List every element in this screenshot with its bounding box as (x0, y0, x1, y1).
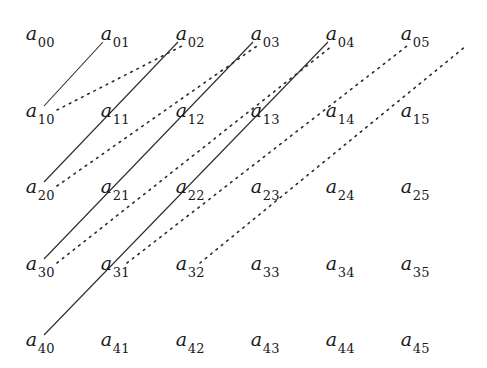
matrix-cell-a05: a05 (401, 24, 429, 47)
matrix-cell-base-symbol: a (326, 99, 337, 121)
matrix-cell-a24: a24 (326, 177, 354, 200)
matrix-cell-subscript: 33 (263, 265, 280, 280)
matrix-cell-a02: a02 (176, 24, 204, 47)
matrix-cell-subscript: 14 (338, 112, 355, 127)
matrix-cell-base-symbol: a (251, 99, 262, 121)
matrix-cell-base-symbol: a (176, 22, 187, 44)
matrix-cell-a14: a14 (326, 101, 354, 124)
matrix-cell-subscript: 44 (338, 341, 355, 356)
matrix-cell-base-symbol: a (401, 328, 412, 350)
matrix-cell-subscript: 02 (188, 35, 205, 50)
matrix-cell-a22: a22 (176, 177, 204, 200)
matrix-cell-subscript: 11 (113, 112, 130, 127)
matrix-cell-subscript: 34 (338, 265, 355, 280)
matrix-cell-a30: a30 (26, 254, 54, 277)
matrix-cell-subscript: 15 (413, 112, 430, 127)
matrix-cell-subscript: 25 (413, 188, 430, 203)
matrix-cell-a21: a21 (101, 177, 129, 200)
matrix-labels-layer: a00a01a02a03a04a05a10a11a12a13a14a15a20a… (0, 0, 487, 368)
matrix-cell-base-symbol: a (26, 175, 37, 197)
matrix-cell-base-symbol: a (101, 328, 112, 350)
matrix-cell-a04: a04 (326, 24, 354, 47)
matrix-cell-base-symbol: a (326, 175, 337, 197)
matrix-cell-subscript: 32 (188, 265, 205, 280)
matrix-cell-a23: a23 (251, 177, 279, 200)
matrix-cell-a34: a34 (326, 254, 354, 277)
matrix-cell-subscript: 23 (263, 188, 280, 203)
matrix-cell-subscript: 10 (38, 112, 55, 127)
matrix-cell-a41: a41 (101, 330, 129, 353)
matrix-cell-base-symbol: a (26, 252, 37, 274)
matrix-cell-base-symbol: a (176, 99, 187, 121)
matrix-cell-a33: a33 (251, 254, 279, 277)
matrix-cell-base-symbol: a (176, 328, 187, 350)
matrix-cell-a01: a01 (101, 24, 129, 47)
matrix-cell-base-symbol: a (176, 175, 187, 197)
matrix-cell-a15: a15 (401, 101, 429, 124)
matrix-cell-subscript: 04 (338, 35, 355, 50)
matrix-cell-a03: a03 (251, 24, 279, 47)
matrix-cell-base-symbol: a (401, 175, 412, 197)
matrix-cell-subscript: 45 (413, 341, 430, 356)
matrix-cell-a11: a11 (101, 101, 129, 124)
matrix-cell-base-symbol: a (251, 175, 262, 197)
matrix-cell-base-symbol: a (101, 175, 112, 197)
matrix-diagram-figure: a00a01a02a03a04a05a10a11a12a13a14a15a20a… (0, 0, 487, 368)
matrix-cell-a45: a45 (401, 330, 429, 353)
matrix-cell-base-symbol: a (326, 328, 337, 350)
matrix-cell-a13: a13 (251, 101, 279, 124)
matrix-cell-subscript: 12 (188, 112, 205, 127)
matrix-cell-base-symbol: a (101, 252, 112, 274)
matrix-cell-subscript: 30 (38, 265, 55, 280)
matrix-cell-base-symbol: a (326, 252, 337, 274)
matrix-cell-base-symbol: a (101, 22, 112, 44)
matrix-cell-a00: a00 (26, 24, 54, 47)
matrix-cell-subscript: 05 (413, 35, 430, 50)
matrix-cell-a32: a32 (176, 254, 204, 277)
matrix-cell-subscript: 03 (263, 35, 280, 50)
matrix-cell-base-symbol: a (251, 22, 262, 44)
matrix-cell-a35: a35 (401, 254, 429, 277)
matrix-cell-a42: a42 (176, 330, 204, 353)
matrix-cell-subscript: 01 (113, 35, 130, 50)
matrix-cell-base-symbol: a (401, 252, 412, 274)
matrix-cell-base-symbol: a (401, 22, 412, 44)
matrix-cell-base-symbol: a (101, 99, 112, 121)
matrix-cell-subscript: 20 (38, 188, 55, 203)
matrix-cell-base-symbol: a (326, 22, 337, 44)
matrix-cell-a12: a12 (176, 101, 204, 124)
matrix-cell-subscript: 42 (188, 341, 205, 356)
matrix-cell-base-symbol: a (26, 22, 37, 44)
matrix-cell-subscript: 43 (263, 341, 280, 356)
matrix-cell-a20: a20 (26, 177, 54, 200)
matrix-cell-subscript: 13 (263, 112, 280, 127)
matrix-cell-a10: a10 (26, 101, 54, 124)
matrix-cell-subscript: 40 (38, 341, 55, 356)
matrix-cell-a25: a25 (401, 177, 429, 200)
matrix-cell-subscript: 00 (38, 35, 55, 50)
matrix-cell-a40: a40 (26, 330, 54, 353)
matrix-cell-subscript: 31 (113, 265, 130, 280)
matrix-cell-subscript: 24 (338, 188, 355, 203)
matrix-cell-base-symbol: a (401, 99, 412, 121)
matrix-cell-base-symbol: a (251, 252, 262, 274)
matrix-cell-subscript: 35 (413, 265, 430, 280)
matrix-cell-a31: a31 (101, 254, 129, 277)
matrix-cell-subscript: 22 (188, 188, 205, 203)
matrix-cell-a43: a43 (251, 330, 279, 353)
matrix-cell-base-symbol: a (176, 252, 187, 274)
matrix-cell-a44: a44 (326, 330, 354, 353)
matrix-cell-subscript: 41 (113, 341, 130, 356)
matrix-cell-base-symbol: a (26, 99, 37, 121)
matrix-cell-base-symbol: a (26, 328, 37, 350)
matrix-cell-subscript: 21 (113, 188, 130, 203)
matrix-cell-base-symbol: a (251, 328, 262, 350)
